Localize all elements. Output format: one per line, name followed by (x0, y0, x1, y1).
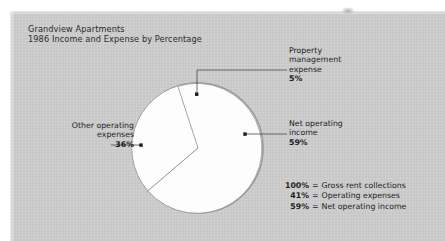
callout-net-line-2: income (289, 128, 343, 137)
legend-label: Operating expenses (322, 191, 400, 201)
chart-legend: 100% = Gross rent collections 41% = Oper… (285, 181, 406, 212)
callout-other-operating-expenses: Other operating expenses 36% (24, 121, 134, 149)
callout-property-line-2: management (289, 55, 341, 64)
callout-property-line-1: Property (289, 46, 341, 55)
callout-property-line-3: expense (289, 65, 341, 74)
callout-net-percent: 59% (289, 138, 343, 147)
figure-canvas: Grandview Apartments 1986 Income and Exp… (0, 0, 445, 241)
callout-other-line-2: expenses (24, 130, 134, 139)
callout-property-percent: 5% (289, 74, 341, 83)
leader-marker-net-operating-income (243, 132, 246, 135)
legend-row: 100% = Gross rent collections (285, 181, 406, 191)
legend-row: 59% = Net operating income (285, 202, 406, 212)
legend-equals-sign: = (309, 191, 322, 201)
legend-equals-sign: = (309, 202, 322, 212)
legend-label: Gross rent collections (322, 181, 406, 191)
legend-label: Net operating income (322, 202, 407, 212)
callout-other-percent: 36% (24, 140, 134, 149)
legend-percent: 100% (285, 181, 309, 191)
legend-equals-sign: = (309, 181, 322, 191)
callout-property-management-expense: Property management expense 5% (289, 46, 341, 84)
callout-net-operating-income: Net operating income 59% (289, 119, 343, 147)
callout-other-line-1: Other operating (24, 121, 134, 130)
legend-percent: 41% (285, 191, 309, 201)
legend-percent: 59% (285, 202, 309, 212)
callout-net-line-1: Net operating (289, 119, 343, 128)
leader-marker-property-management-expense (195, 93, 198, 96)
legend-row: 41% = Operating expenses (285, 191, 406, 201)
leader-marker-other-operating-expenses (139, 143, 142, 146)
